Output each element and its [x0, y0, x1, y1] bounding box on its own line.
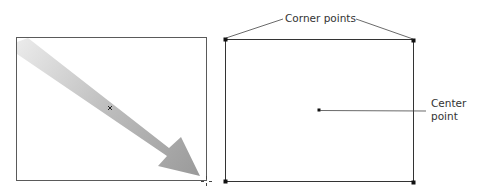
corner-point-bottom-right [412, 181, 416, 185]
right-panel [224, 19, 427, 185]
left-panel [17, 38, 213, 187]
center-point-label: Center point [431, 97, 466, 123]
diagram-canvas: Corner points Center point [0, 0, 478, 191]
corner-point-bottom-left [224, 180, 228, 184]
corner-points-label: Corner points [285, 12, 356, 25]
center-point [318, 109, 321, 112]
center-point-label-line2: point [431, 110, 466, 123]
diagram-svg [0, 0, 478, 191]
center-point-label-line1: Center [431, 97, 466, 110]
leader-line-corner-right [356, 19, 413, 39]
leader-line-center [320, 111, 426, 112]
leader-line-corner-left [226, 19, 283, 38]
